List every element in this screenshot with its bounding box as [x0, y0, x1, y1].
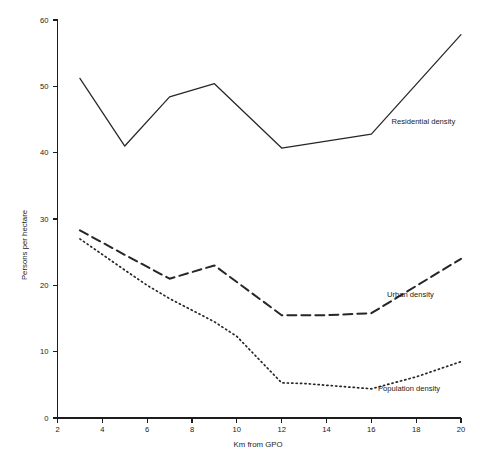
chart-container: 0102030405060 2468101214161820 Residenti…: [0, 0, 480, 461]
x-tick-label: 8: [190, 425, 194, 434]
x-tick-label: 18: [412, 425, 420, 434]
line-chart: 0102030405060 2468101214161820 Residenti…: [0, 0, 480, 461]
series-annotations: Residential densityUrban densityPopulati…: [378, 117, 455, 393]
y-tick-label: 40: [40, 148, 48, 157]
series-group: [80, 35, 461, 389]
y-tick-label: 60: [40, 16, 48, 25]
x-axis-title: Km from GPO: [234, 440, 283, 449]
y-tick-label: 20: [40, 281, 48, 290]
y-tick-label: 50: [40, 82, 48, 91]
x-tick-label: 10: [233, 425, 241, 434]
x-tick-label: 16: [367, 425, 375, 434]
series-line-residential-density: [80, 35, 461, 148]
x-tick-label: 20: [457, 425, 465, 434]
x-tick-label: 14: [322, 425, 330, 434]
y-axis: 0102030405060: [40, 16, 57, 423]
y-tick-label: 30: [40, 215, 48, 224]
y-tick-label: 10: [40, 347, 48, 356]
y-tick-label: 0: [44, 414, 48, 423]
series-line-urban-density: [80, 230, 461, 315]
series-label-residential-density: Residential density: [392, 117, 456, 126]
x-tick-label: 2: [55, 425, 59, 434]
x-tick-label: 4: [100, 425, 104, 434]
x-tick-label: 12: [277, 425, 285, 434]
x-axis: 2468101214161820: [55, 418, 465, 434]
series-label-urban-density: Urban density: [387, 290, 434, 299]
y-axis-title: Persons per hectare: [20, 210, 29, 280]
x-tick-label: 6: [145, 425, 149, 434]
series-label-population-density: Population density: [378, 384, 440, 393]
